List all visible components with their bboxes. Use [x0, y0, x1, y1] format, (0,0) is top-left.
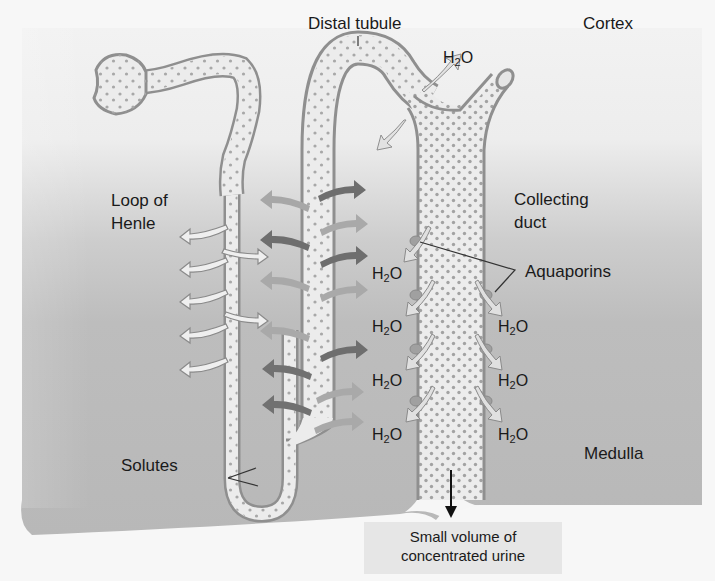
h2o-label-right-2: H2O [498, 317, 528, 337]
h2o-label-top: H2O [443, 48, 473, 68]
urine-caption: Small volume of concentrated urine [364, 527, 562, 565]
solutes-label: Solutes [121, 456, 178, 476]
collecting-duct-label-line2: duct [514, 213, 546, 233]
cortex-label: Cortex [583, 14, 633, 34]
collecting-duct-label-line1: Collecting [514, 190, 589, 210]
nephron-diagram [0, 0, 715, 581]
distal-tubule-label: Distal tubule [308, 14, 402, 34]
h2o-label-left-4: H2O [372, 425, 402, 445]
loop-of-henle-label-line1: Loop of [111, 191, 168, 211]
h2o-label-left-1: H2O [372, 264, 402, 284]
aquaporins-label: Aquaporins [525, 262, 611, 282]
urine-caption-line1: Small volume of [364, 527, 562, 546]
medulla-label: Medulla [584, 444, 644, 464]
h2o-label-right-3: H2O [498, 371, 528, 391]
urine-caption-line2: concentrated urine [364, 546, 562, 565]
h2o-label-left-3: H2O [372, 371, 402, 391]
h2o-label-right-4: H2O [498, 425, 528, 445]
loop-of-henle-label-line2: Henle [111, 214, 155, 234]
h2o-label-left-2: H2O [372, 317, 402, 337]
